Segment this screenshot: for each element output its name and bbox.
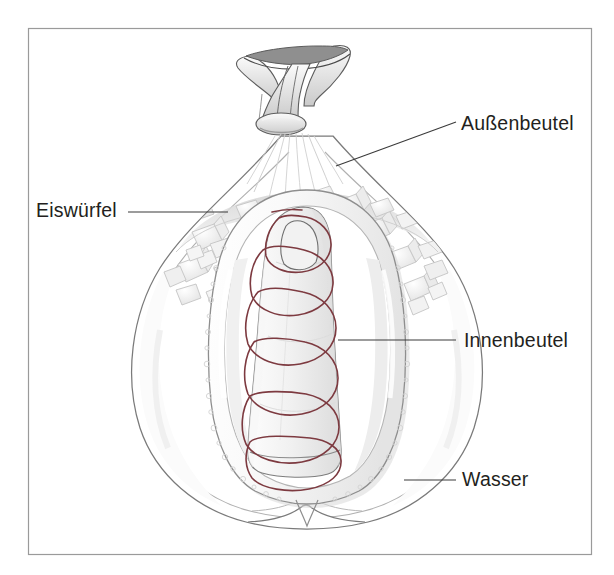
- label-eiswuerfel: Eiswürfel: [36, 199, 117, 222]
- fingernail: [281, 221, 318, 270]
- label-innenbeutel: Innenbeutel: [464, 329, 568, 352]
- figure-root: Außenbeutel Eiswürfel Innenbeutel Wasser: [0, 0, 614, 575]
- label-wasser: Wasser: [462, 468, 529, 491]
- label-aussenbeutel: Außenbeutel: [461, 112, 574, 135]
